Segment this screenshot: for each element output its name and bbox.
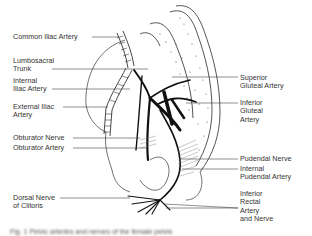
label-inferior-rectal-artery-and-nerve: Inferior Rectal Artery and Nerve bbox=[240, 190, 273, 224]
label-inferior-gluteal-artery: Inferior Gluteal Artery bbox=[240, 99, 263, 124]
pelvis-outline bbox=[86, 40, 202, 200]
label-obturator-artery: Obturator Artery bbox=[13, 144, 64, 152]
leader-lines bbox=[52, 37, 238, 208]
label-lumbosacral-trunk: Lumbosacral Trunk bbox=[13, 57, 54, 74]
figure-caption: Fig. 1 Pelvic arteries and nerves of the… bbox=[10, 228, 310, 236]
label-external-iliac-artery: External Iliac Artery bbox=[13, 103, 54, 120]
label-pudendal-nerve: Pudendal Nerve bbox=[240, 155, 292, 163]
label-obturator-nerve: Obturator Nerve bbox=[13, 134, 65, 142]
label-internal-iliac-artery: Internal Iliac Artery bbox=[13, 77, 47, 94]
label-dorsal-nerve-of-clitoris: Dorsal Nerve of Clitoris bbox=[13, 194, 55, 211]
leader-inferior-rectal-1 bbox=[164, 204, 238, 208]
internal-iliac-branches bbox=[134, 70, 196, 200]
label-superior-gluteal-artery: Superior Gluteal Artery bbox=[240, 74, 284, 91]
label-internal-pudendal-artery: Internal Pudendal Artery bbox=[240, 165, 291, 182]
sacrum-stipple bbox=[159, 17, 208, 150]
label-common-iliac-artery: Common Iliac Artery bbox=[13, 33, 78, 41]
terminal-branches bbox=[128, 196, 170, 214]
